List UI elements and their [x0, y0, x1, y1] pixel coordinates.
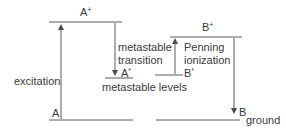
b-star-label: B*	[184, 65, 194, 79]
b-ground-subscript: ground	[246, 114, 280, 126]
a-plus-label: A+	[80, 4, 91, 18]
penning-ionization-diagram: A+ excitation A metastable transition A*…	[0, 0, 286, 129]
metastable-levels-label: metastable levels	[102, 81, 187, 93]
penning-label-2: ionization	[184, 54, 230, 66]
a-ground-label: A	[52, 107, 59, 119]
metastable-transition-label-1: metastable	[118, 41, 172, 53]
b-plus-label: B+	[202, 19, 213, 33]
penning-label-1: Penning	[184, 41, 224, 53]
excitation-label: excitation	[14, 75, 60, 87]
a-star-label: A*	[121, 65, 131, 79]
